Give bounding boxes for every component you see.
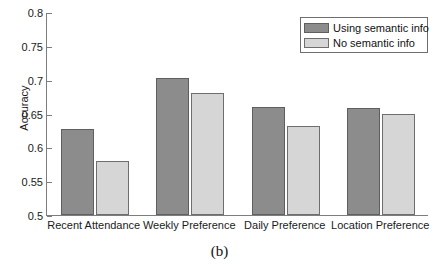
legend-item: Using semantic info — [304, 20, 424, 35]
y-tick-label: 0.6 — [28, 142, 43, 154]
y-tick-label: 0.8 — [28, 7, 43, 19]
y-tick-mark — [47, 13, 52, 14]
y-tick-label: 0.7 — [28, 75, 43, 87]
y-tick-mark — [47, 115, 52, 116]
bar — [347, 108, 380, 215]
bar — [191, 93, 224, 215]
bar — [287, 126, 320, 215]
legend-label: Using semantic info — [333, 22, 429, 34]
x-axis-label: Weekly Preference — [143, 219, 236, 231]
bar — [382, 114, 415, 216]
bar — [96, 161, 129, 215]
y-tick-label: 0.5 — [28, 210, 43, 222]
y-tick-mark — [47, 81, 52, 82]
x-axis-label: Daily Preference — [244, 219, 325, 231]
legend-label: No semantic info — [333, 37, 415, 49]
legend-swatch-using-semantic-info — [304, 23, 329, 33]
figure-panel-b: Accuracy 0.50.550.60.650.70.750.8 Recent… — [0, 0, 439, 273]
x-axis-label: Recent Attendance — [47, 219, 140, 231]
y-tick-label: 0.75 — [22, 41, 43, 53]
bar — [252, 107, 285, 215]
legend-swatch-no-semantic-info — [304, 38, 329, 48]
y-tick-mark — [47, 216, 52, 217]
y-tick-mark — [47, 47, 52, 48]
y-tick-mark — [47, 182, 52, 183]
chart-legend: Using semantic info No semantic info — [300, 17, 428, 53]
figure-caption: (b) — [0, 243, 439, 260]
y-tick-label: 0.65 — [22, 109, 43, 121]
legend-item: No semantic info — [304, 35, 424, 50]
y-tick-label: 0.55 — [22, 176, 43, 188]
y-tick-mark — [47, 148, 52, 149]
bar — [156, 78, 189, 215]
bar — [61, 129, 94, 215]
x-axis-label: Location Preference — [331, 219, 429, 231]
